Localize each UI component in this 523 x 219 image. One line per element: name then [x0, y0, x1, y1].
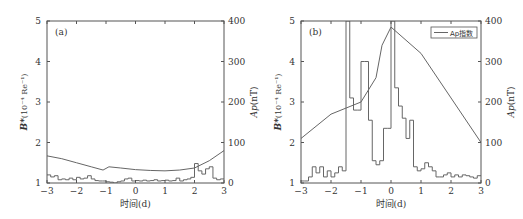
y-left-axis-label: B*(10⁻⁴ Re⁻¹): [19, 74, 29, 132]
x-tick-label: 1: [418, 186, 424, 196]
y-right-tick-label: 0: [485, 178, 491, 188]
y-right-tick-label: 100: [485, 138, 502, 148]
y-right-tick-label: 300: [485, 57, 502, 67]
y-left-tick-label: 4: [289, 57, 295, 67]
x-tick-label: 1: [162, 186, 168, 196]
y-right-tick-label: 0: [228, 178, 234, 188]
x-tick-label: −3: [40, 186, 54, 196]
panel-label: (b): [309, 27, 322, 37]
y-left-tick-label: 1: [35, 178, 41, 188]
y-right-tick-label: 300: [228, 57, 245, 67]
x-axis-label: 时间(d): [120, 198, 151, 209]
y-right-tick-label: 400: [485, 16, 502, 26]
series-group: [301, 21, 481, 181]
chart-panel-a: −3−2−10123123450100200300400时间(d)B*(10⁻⁴…: [19, 16, 259, 209]
y-left-tick-label: 3: [35, 97, 41, 107]
x-tick-label: −1: [354, 186, 367, 196]
series-group: [47, 151, 224, 183]
y-left-tick-label: 5: [35, 16, 41, 26]
y-left-tick-label: 2: [35, 138, 41, 148]
x-tick-label: 3: [478, 186, 484, 196]
x-tick-label: 3: [221, 186, 227, 196]
x-tick-label: −1: [99, 186, 112, 196]
y-left-tick-label: 5: [289, 16, 295, 26]
series-step-line: [301, 21, 481, 181]
chart-panel-b: −3−2−10123123450100200300400时间(d)B*(10⁻⁴…: [273, 16, 516, 209]
panel-label: (a): [55, 27, 67, 37]
y-right-axis-label: Ap(nT): [249, 86, 259, 118]
x-tick-label: −2: [70, 186, 83, 196]
legend-label: Ap指数: [450, 29, 473, 38]
y-left-axis-label: B*(10⁻⁴ Re⁻¹): [273, 74, 283, 132]
y-left-tick-label: 4: [35, 57, 41, 67]
x-tick-label: −3: [294, 186, 308, 196]
chart-figure: −3−2−10123123450100200300400时间(d)B*(10⁻⁴…: [0, 0, 523, 219]
legend: Ap指数: [431, 27, 477, 38]
y-left-tick-label: 3: [289, 97, 295, 107]
series-line-line: [47, 151, 224, 171]
y-right-tick-label: 200: [485, 97, 502, 107]
y-right-tick-label: 400: [228, 16, 245, 26]
x-tick-label: 0: [133, 186, 139, 196]
y-left-tick-label: 2: [289, 138, 295, 148]
plot-frame: [47, 21, 224, 183]
y-left-tick-label: 1: [289, 178, 295, 188]
y-right-axis-label: Ap(nT): [506, 86, 516, 118]
x-axis-label: 时间(d): [376, 198, 407, 209]
x-tick-label: 2: [192, 186, 198, 196]
x-tick-label: 2: [448, 186, 454, 196]
y-right-tick-label: 100: [228, 138, 245, 148]
x-tick-label: −2: [324, 186, 337, 196]
x-tick-label: 0: [388, 186, 394, 196]
y-right-tick-label: 200: [228, 97, 245, 107]
